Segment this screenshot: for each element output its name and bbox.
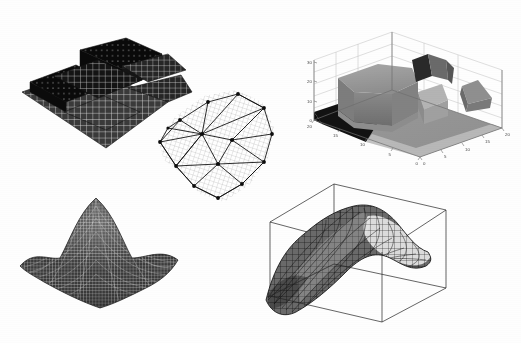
panel-wave-surface-box <box>256 176 456 328</box>
panel-gaussian-peak-surface <box>18 188 200 310</box>
figure-plate: 30 20 10 0 20 15 10 5 0 0 5 10 <box>0 0 521 343</box>
x-tick-10: 10 <box>465 147 470 152</box>
x-tick-15: 15 <box>485 139 490 144</box>
rear-fin <box>412 54 454 84</box>
panel-shaded-plateau-surface: 30 20 10 0 20 15 10 5 0 0 5 10 <box>296 24 514 168</box>
y-tick-10: 10 <box>360 142 365 147</box>
right-ridge <box>460 80 492 112</box>
wave-surface-mesh <box>256 176 456 328</box>
z-tick-10: 10 <box>307 99 312 104</box>
y-tick-15: 15 <box>333 133 338 138</box>
central-plateau <box>338 64 418 132</box>
y-tick-20: 20 <box>307 124 312 129</box>
y-tick-0: 0 <box>416 161 419 166</box>
x-tick-20: 20 <box>505 132 510 137</box>
peak-surface-mesh <box>18 188 200 310</box>
z-tick-30: 30 <box>307 60 312 65</box>
z-tick-0: 0 <box>310 118 313 123</box>
y-tick-5: 5 <box>389 152 392 157</box>
z-tick-20: 20 <box>307 79 312 84</box>
x-tick-0: 0 <box>423 161 426 166</box>
x-tick-5: 5 <box>444 154 447 159</box>
